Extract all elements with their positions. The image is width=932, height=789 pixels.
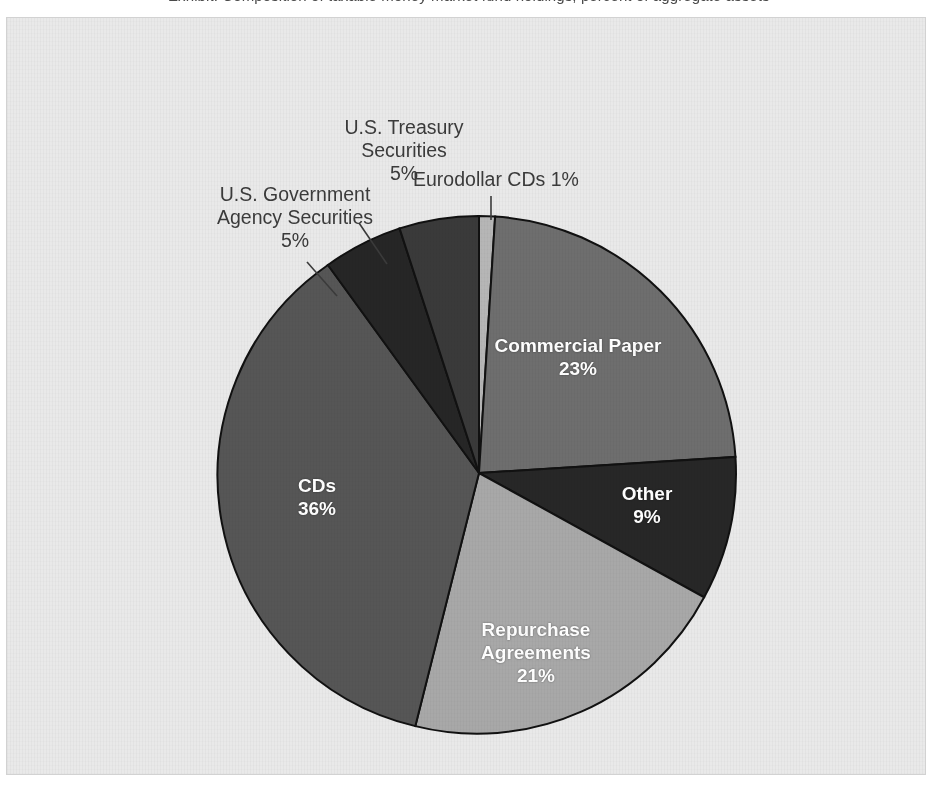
- callout-label-us-government-agency-securities: U.S. Government Agency Securities 5%: [185, 183, 405, 252]
- figure-caption: Exhibit: Composition of taxable money ma…: [168, 0, 770, 4]
- slice-label-repurchase-agreements: Repurchase Agreements 21%: [431, 618, 641, 687]
- slice-label-commercial-paper: Commercial Paper 23%: [462, 334, 694, 380]
- pie-chart-figure-panel: U.S. Treasury Securities 5% U.S. Governm…: [6, 17, 926, 775]
- figure-caption-strip: Exhibit: Composition of taxable money ma…: [0, 0, 932, 14]
- callout-label-eurodollar-cds: Eurodollar CDs 1%: [413, 168, 633, 191]
- slice-label-cds: CDs 36%: [237, 474, 397, 520]
- slice-label-other: Other 9%: [582, 482, 712, 528]
